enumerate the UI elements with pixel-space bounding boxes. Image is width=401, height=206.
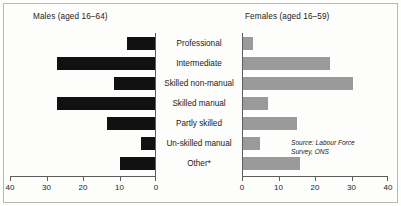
category-label: Other* (156, 159, 242, 168)
category-label: Skilled non-manual (156, 79, 242, 88)
bar (57, 97, 156, 110)
bar-row (10, 157, 156, 170)
bar (242, 137, 260, 150)
axis-tick (47, 177, 48, 181)
axis-tick-label: 0 (154, 183, 158, 192)
bar (141, 137, 156, 150)
bar-row (242, 97, 388, 110)
axis-tick-label: 0 (240, 183, 244, 192)
bar (107, 117, 156, 130)
bar (242, 37, 253, 50)
axis-tick-label: 20 (311, 183, 320, 192)
axis-tick-label: 40 (6, 183, 15, 192)
category-label-column: ProfessionalIntermediateSkilled non-manu… (156, 33, 242, 177)
bar-row (10, 97, 156, 110)
bar (242, 77, 353, 90)
axis-tick-label: 30 (347, 183, 356, 192)
category-label: Skilled manual (156, 99, 242, 108)
bar-row (10, 57, 156, 70)
bar (57, 57, 156, 70)
bar (242, 117, 297, 130)
bar (242, 97, 268, 110)
males-panel-title: Males (aged 16–64) (33, 12, 108, 21)
axis-tick-label: 20 (79, 183, 88, 192)
bar-row (242, 77, 388, 90)
axis-tick (279, 177, 280, 181)
axis-tick (352, 177, 353, 181)
source-line-2: Survey, ONS (291, 148, 391, 157)
source-line-1: Source: Labour Force (291, 139, 391, 148)
axis-tick (155, 177, 156, 181)
axis-tick (242, 177, 243, 181)
bar (127, 37, 156, 50)
axis-tick (315, 177, 316, 181)
females-x-axis-ticks: 010203040 (242, 177, 388, 201)
category-label: Un-skilled manual (156, 139, 242, 148)
males-bar-group (10, 33, 156, 177)
axis-tick (387, 177, 388, 181)
axis-tick (83, 177, 84, 181)
bar-row (10, 77, 156, 90)
bar-row (10, 137, 156, 150)
bar-row (242, 157, 388, 170)
females-panel-title: Females (aged 16–59) (245, 12, 329, 21)
category-label: Partly skilled (156, 119, 242, 128)
bar-row (10, 117, 156, 130)
bar-row (242, 57, 388, 70)
axis-tick (120, 177, 121, 181)
axis-tick (10, 177, 11, 181)
bar (242, 157, 300, 170)
axis-tick-label: 40 (384, 183, 393, 192)
category-label: Professional (156, 39, 242, 48)
population-pyramid-chart: Males (aged 16–64) Females (aged 16–59) … (0, 0, 401, 206)
bar (114, 77, 156, 90)
females-zero-axis (242, 33, 243, 177)
males-plot-area (10, 33, 156, 177)
bar-row (242, 37, 388, 50)
bar (242, 57, 330, 70)
source-annotation: Source: Labour Force Survey, ONS (291, 139, 391, 157)
category-label: Intermediate (156, 59, 242, 68)
bar-row (242, 117, 388, 130)
bar-row (10, 37, 156, 50)
axis-tick-label: 10 (274, 183, 283, 192)
bar (120, 157, 157, 170)
males-x-axis-ticks: 403020100 (10, 177, 156, 201)
axis-tick-label: 10 (115, 183, 124, 192)
axis-tick-label: 30 (42, 183, 51, 192)
